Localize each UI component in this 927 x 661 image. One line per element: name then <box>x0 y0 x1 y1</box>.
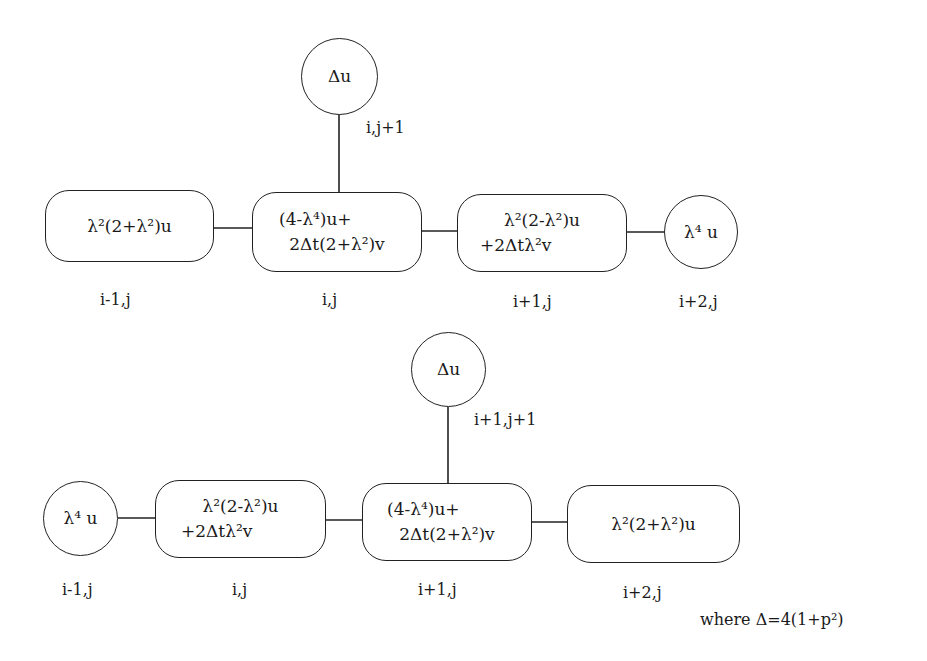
bottom-stencil-label-i+2: i+2,j <box>623 583 662 602</box>
bottom-stencil-node-i-1: λ⁴ u <box>43 481 118 556</box>
connector-lines <box>0 0 927 661</box>
node-line1: (4-λ⁴)u+ <box>363 497 460 522</box>
top-stencil-node-i: (4-λ⁴)u+ 2Δt(2+λ²)v <box>252 192 422 272</box>
bottom-stencil-label-i-1: i-1,j <box>62 580 93 599</box>
top-stencil-label-i+2: i+2,j <box>679 292 718 311</box>
node-line2: 2Δt(2+λ²)v <box>399 522 494 547</box>
top-stencil-node-i-1: λ²(2+λ²)u <box>45 190 214 262</box>
footnote-delta-definition: where Δ=4(1+p²) <box>700 610 844 629</box>
node-line1: λ²(2+λ²)u <box>87 214 171 239</box>
node-line1: λ²(2-λ²)u <box>504 208 580 233</box>
bottom-stencil-upper-node: Δu <box>411 332 486 407</box>
node-text: Δu <box>328 64 351 89</box>
bottom-stencil-node-i+2: λ²(2+λ²)u <box>567 485 740 563</box>
node-line1: λ²(2-λ²)u <box>203 494 279 519</box>
node-text: Δu <box>437 357 460 382</box>
top-stencil-label-i-1: i-1,j <box>100 290 131 309</box>
top-stencil-label-i: i,j <box>322 290 337 309</box>
node-line1: λ⁴ u <box>64 506 98 531</box>
node-line2: 2Δt(2+λ²)v <box>289 232 384 257</box>
top-stencil-label-i+1: i+1,j <box>513 292 552 311</box>
node-line1: λ⁴ u <box>684 220 718 245</box>
node-line1: (4-λ⁴)u+ <box>253 207 352 232</box>
top-stencil-upper-node: Δu <box>301 38 378 115</box>
bottom-stencil-node-i: λ²(2-λ²)u +2Δtλ²v <box>155 480 326 558</box>
node-line2: +2Δtλ²v <box>458 233 551 258</box>
bottom-stencil-label-i: i,j <box>232 580 247 599</box>
bottom-stencil-upper-label: i+1,j+1 <box>474 410 536 429</box>
stencil-diagram: Δu i,j+1 λ²(2+λ²)u i-1,j (4-λ⁴)u+ 2Δt(2+… <box>0 0 927 661</box>
bottom-stencil-node-i+1: (4-λ⁴)u+ 2Δt(2+λ²)v <box>362 483 532 561</box>
node-line1: λ²(2+λ²)u <box>611 512 695 537</box>
bottom-stencil-label-i+1: i+1,j <box>418 580 457 599</box>
top-stencil-node-i+1: λ²(2-λ²)u +2Δtλ²v <box>457 194 627 272</box>
top-stencil-upper-label: i,j+1 <box>366 118 405 137</box>
node-line2: +2Δtλ²v <box>156 519 252 544</box>
top-stencil-node-i+2: λ⁴ u <box>664 195 738 269</box>
